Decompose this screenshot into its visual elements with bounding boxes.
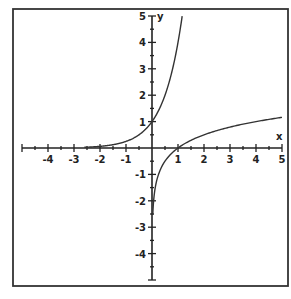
x-tick-label: -3 xyxy=(68,154,79,165)
y-tick-label: -2 xyxy=(135,196,146,207)
x-tick-label: 3 xyxy=(227,154,234,165)
y-tick-label: -1 xyxy=(135,169,146,180)
y-tick-label: 1 xyxy=(139,117,146,128)
x-tick-label: 2 xyxy=(201,154,208,165)
x-tick-label: 4 xyxy=(253,154,260,165)
tick-labels: -4-3-2-11234554321-1-2-3-4 xyxy=(42,11,285,260)
y-tick-label: 3 xyxy=(139,64,146,75)
y-tick-label: -4 xyxy=(135,249,146,260)
y-axis-label: y xyxy=(157,11,164,22)
logarithmic-curve xyxy=(153,117,282,214)
x-tick-label: -1 xyxy=(120,154,131,165)
exponential-curve xyxy=(84,16,182,147)
x-tick-label: -4 xyxy=(42,154,53,165)
y-tick-label: 2 xyxy=(139,90,146,101)
x-tick-label: 1 xyxy=(175,154,182,165)
y-tick-label: -3 xyxy=(135,222,146,233)
x-tick-label: -2 xyxy=(94,154,105,165)
function-graph: -4-3-2-11234554321-1-2-3-4 x y xyxy=(0,0,291,299)
y-tick-label: 4 xyxy=(139,37,146,48)
curves xyxy=(84,16,282,215)
x-axis-label: x xyxy=(276,131,283,142)
y-tick-label: 5 xyxy=(139,11,146,22)
x-tick-label: 5 xyxy=(279,154,286,165)
